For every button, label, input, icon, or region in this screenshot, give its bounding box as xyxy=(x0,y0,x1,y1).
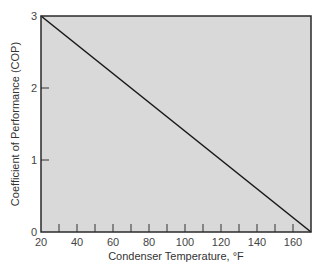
x-axis-label: Condenser Temperature, °F xyxy=(108,250,244,262)
x-tick-labels: 20406080100120140160 xyxy=(35,236,302,248)
x-tick-label: 160 xyxy=(284,236,302,248)
y-tick-label: 3 xyxy=(31,10,37,22)
y-tick-label: 0 xyxy=(31,226,37,238)
x-tick-label: 80 xyxy=(143,236,155,248)
y-tick-label: 1 xyxy=(31,154,37,166)
y-axis-label: Coefficient of Performance (COP) xyxy=(9,42,21,206)
y-tick-label: 2 xyxy=(31,82,37,94)
x-tick-label: 40 xyxy=(71,236,83,248)
y-tick-labels: 0123 xyxy=(31,10,37,238)
chart: 20406080100120140160 0123 Condenser Temp… xyxy=(0,0,325,268)
x-tick-label: 100 xyxy=(176,236,194,248)
x-tick-label: 60 xyxy=(107,236,119,248)
x-tick-label: 120 xyxy=(212,236,230,248)
x-tick-label: 140 xyxy=(248,236,266,248)
